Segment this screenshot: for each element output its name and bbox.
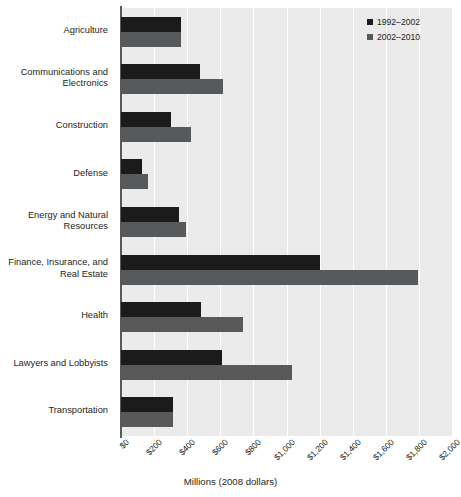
bar-group bbox=[121, 350, 452, 380]
bar-chart: AgricultureCommunications and Electronic… bbox=[0, 0, 461, 497]
bar bbox=[121, 32, 181, 47]
bar bbox=[121, 365, 292, 380]
bar bbox=[121, 397, 173, 412]
legend-item: 1992–2002 bbox=[367, 16, 420, 29]
bar bbox=[121, 207, 179, 222]
bar-group bbox=[121, 397, 452, 427]
bar-group bbox=[121, 112, 452, 142]
bar-group bbox=[121, 207, 452, 237]
category-label: Lawyers and Lobbyists bbox=[0, 358, 108, 370]
category-label: Health bbox=[0, 310, 108, 322]
bar bbox=[121, 302, 201, 317]
legend-item: 2002–2010 bbox=[367, 31, 420, 44]
category-label: Construction bbox=[0, 120, 108, 132]
legend: 1992–20022002–2010 bbox=[367, 16, 420, 45]
bar bbox=[121, 112, 171, 127]
category-label: Communications and Electronics bbox=[0, 67, 108, 90]
bar bbox=[121, 350, 222, 365]
gridline bbox=[452, 8, 453, 436]
category-label: Energy and Natural Resources bbox=[0, 210, 108, 233]
bar bbox=[121, 412, 173, 427]
category-label: Transportation bbox=[0, 405, 108, 417]
bar-group bbox=[121, 255, 452, 285]
legend-label: 1992–2002 bbox=[377, 16, 420, 29]
category-label: Agriculture bbox=[0, 25, 108, 37]
bar bbox=[121, 79, 223, 94]
bar bbox=[121, 317, 243, 332]
legend-label: 2002–2010 bbox=[377, 31, 420, 44]
bar-group bbox=[121, 64, 452, 94]
bar bbox=[121, 64, 200, 79]
bar bbox=[121, 270, 418, 285]
bar bbox=[121, 255, 320, 270]
square-marker-icon bbox=[367, 19, 373, 25]
category-label: Finance, Insurance, and Real Estate bbox=[0, 257, 108, 280]
bar-group bbox=[121, 159, 452, 189]
square-marker-icon bbox=[367, 34, 373, 40]
bar bbox=[121, 159, 142, 174]
bar-group bbox=[121, 302, 452, 332]
bar bbox=[121, 222, 186, 237]
x-axis-ticks: $0$200$400$600$800$1,000$1,200$1,400$1,6… bbox=[0, 437, 461, 473]
x-axis-title: Millions (2008 dollars) bbox=[0, 476, 461, 487]
category-label: Defense bbox=[0, 168, 108, 180]
bar bbox=[121, 127, 191, 142]
bar bbox=[121, 174, 148, 189]
bar bbox=[121, 17, 181, 32]
